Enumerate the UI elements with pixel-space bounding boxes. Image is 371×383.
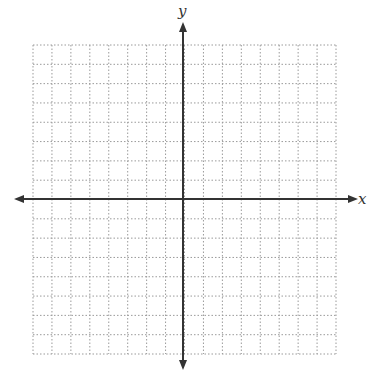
x-axis-label: x bbox=[358, 190, 366, 208]
y-axis-label: y bbox=[178, 2, 186, 20]
grid-svg bbox=[0, 0, 371, 383]
y-axis-up-arrow-icon bbox=[179, 22, 187, 32]
y-axis bbox=[179, 22, 187, 370]
y-axis-down-arrow-icon bbox=[179, 360, 187, 370]
x-axis bbox=[14, 195, 358, 203]
x-axis-left-arrow-icon bbox=[14, 195, 24, 203]
x-axis-right-arrow-icon bbox=[348, 195, 358, 203]
